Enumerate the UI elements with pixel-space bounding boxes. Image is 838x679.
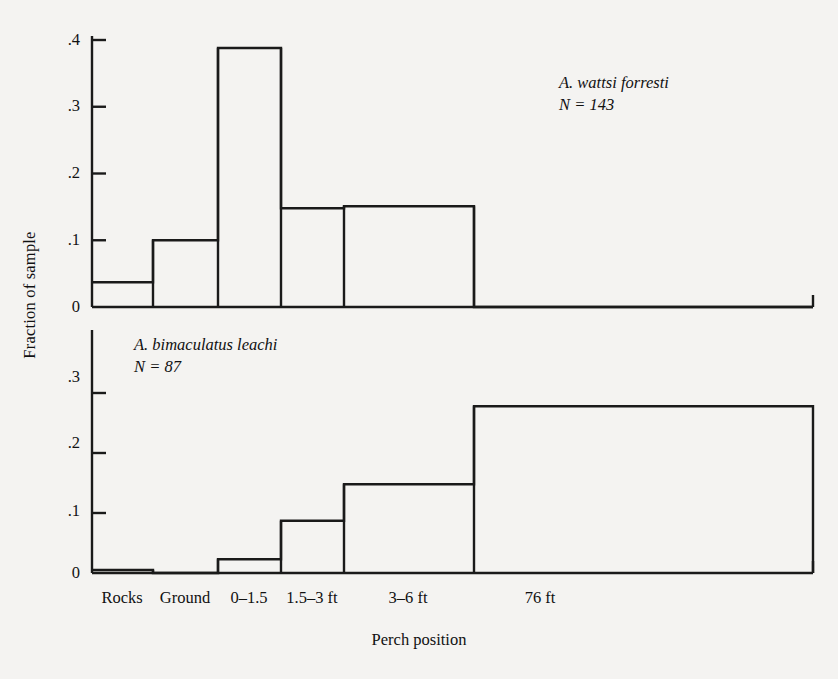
- bottom-histogram-outline: [92, 406, 813, 573]
- bottom-bar-separators: [153, 406, 474, 573]
- top-y-axis-ticks: [92, 40, 813, 307]
- top-panel-plot: [92, 36, 813, 307]
- histogram-figure: Fraction of sample Perch position .4 .3 …: [0, 0, 838, 679]
- bottom-panel-plot: [92, 330, 813, 573]
- top-histogram-outline: [92, 48, 813, 307]
- top-bar-separators: [153, 48, 474, 307]
- chart-canvas: [0, 0, 838, 679]
